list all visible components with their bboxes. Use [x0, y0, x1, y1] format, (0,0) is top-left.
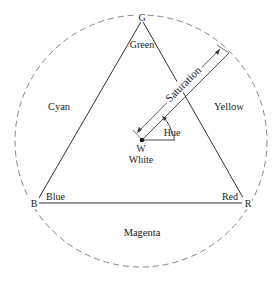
- cyan-label: Cyan: [48, 101, 71, 112]
- saturation-arrow-start-icon: [137, 127, 142, 133]
- saturation-arrow-end-icon: [215, 49, 220, 55]
- blue-label: Blue: [46, 191, 65, 202]
- hsi-diagram: Saturation G B R Green Blue Red Cyan Yel…: [0, 0, 278, 282]
- saturation-radius-line: [142, 53, 229, 140]
- vertex-b-letter: B: [31, 198, 38, 209]
- hue-label: Hue: [164, 127, 181, 138]
- white-label: White: [129, 154, 154, 165]
- magenta-label: Magenta: [124, 227, 161, 238]
- green-label: Green: [130, 39, 154, 50]
- saturation-label: Saturation: [163, 63, 204, 104]
- yellow-label: Yellow: [214, 101, 244, 112]
- vertex-g-letter: G: [138, 12, 145, 23]
- red-label: Red: [222, 191, 238, 202]
- white-letter: W: [137, 144, 146, 154]
- vertex-r-letter: R: [245, 198, 252, 209]
